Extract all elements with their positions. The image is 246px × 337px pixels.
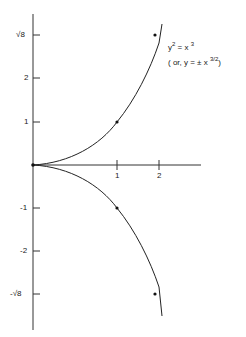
x-tick-label-2: 2 bbox=[157, 172, 161, 180]
equation-label: y2 = x 3 bbox=[168, 41, 194, 52]
y-tick-label-1: 1 bbox=[24, 118, 28, 126]
y-tick-label-neg1: -1 bbox=[20, 204, 27, 212]
lower-branch-curve bbox=[33, 165, 162, 316]
equation-alt-label: ( or, y = ± x 3/2) bbox=[168, 56, 221, 67]
y-tick-label-neg-sqrt8: -√8 bbox=[10, 290, 22, 298]
x-tick-label-1: 1 bbox=[115, 172, 119, 180]
cusp-plot bbox=[0, 0, 246, 337]
y-tick-label-2: 2 bbox=[24, 74, 28, 82]
y-tick-label-sqrt8: √8 bbox=[16, 31, 25, 39]
y-tick-label-neg2: -2 bbox=[20, 247, 27, 255]
upper-branch-curve bbox=[33, 24, 162, 165]
